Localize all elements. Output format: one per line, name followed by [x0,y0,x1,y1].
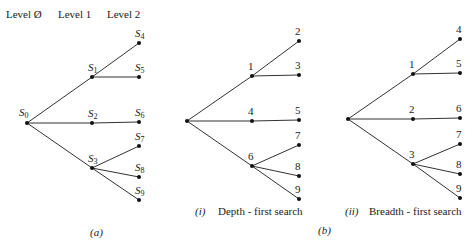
node-label-subscript: 8 [141,166,145,175]
edge-c-g [92,146,139,168]
caption-b: (b) [318,224,331,237]
edge-a-d [252,41,299,76]
tree-a: S0S1S2S3S4S5S6S7S8S9 [19,27,145,202]
caption-b-ii-prefix: (ii) [345,205,359,218]
node-label: S9 [135,184,145,198]
tree-node [90,166,94,170]
tree-node [458,116,462,120]
node-label: 6 [248,150,254,162]
node-label: 7 [295,129,301,141]
tree-node [137,144,141,148]
node-label: 3 [295,59,301,71]
node-label: S7 [135,130,145,144]
node-label: S4 [135,27,145,41]
edge-a-e [252,75,299,76]
node-label-subscript: 5 [141,66,145,75]
edge-b-f [252,120,299,121]
node-label: 1 [409,58,415,70]
caption-b-i: Depth - first search [218,205,303,217]
node-label: 7 [456,128,462,140]
edge-b-f [92,122,139,123]
tree-node [297,39,301,43]
edge-r-c [27,123,92,168]
node-label-subscript: 6 [141,111,145,120]
tree-node [250,119,254,123]
tree-node [458,196,462,200]
tree-node [90,75,94,79]
caption-b-i-prefix: (i) [195,205,206,218]
node-label-subscript: 7 [141,135,145,144]
captions: (a) (i) Depth - first search (ii) Breadt… [90,205,462,239]
tree-node [297,143,301,147]
tree-node [346,117,350,121]
node-label-subscript: 0 [25,111,29,120]
node-label: 5 [295,104,301,116]
caption-a: (a) [90,226,103,239]
node-label: S2 [88,107,98,121]
trees: S0S1S2S3S4S5S6S7S8S9146235789123456789 [19,23,462,202]
edge-b-f [413,118,460,119]
node-label: 1 [248,60,254,72]
tree-node [185,119,189,123]
node-label: S8 [135,161,145,175]
node-label-subscript: 1 [94,66,98,75]
node-label: S5 [135,61,145,75]
node-label: 5 [456,57,462,69]
edge-r-c [187,121,252,166]
tree-node [250,164,254,168]
tree-node [411,162,415,166]
edge-c-g [413,144,460,164]
tree-node [137,41,141,45]
edge-a-d [413,39,460,74]
tree-node [411,117,415,121]
node-label: 8 [295,160,301,172]
tree-node [411,72,415,76]
node-label: 2 [295,25,301,37]
node-label: 4 [456,23,462,35]
node-label: S3 [88,152,98,166]
edge-r-a [187,76,252,121]
tree-node [458,71,462,75]
edge-r-a [27,77,92,123]
node-label: 9 [295,183,301,195]
edge-a-d [92,43,139,77]
node-label-subscript: 2 [94,112,98,121]
tree-node [297,174,301,178]
tree-b-i: 146235789 [185,25,301,201]
tree-node [137,120,141,124]
level-headers: Level Ø Level 1 Level 2 [6,8,140,20]
node-label-subscript: 3 [94,157,98,166]
node-label: 9 [456,182,462,194]
tree-node [297,73,301,77]
tree-node [137,75,141,79]
node-label-subscript: 4 [141,32,145,41]
tree-node [458,37,462,41]
node-label: S1 [88,61,98,75]
tree-node [297,118,301,122]
node-label: S0 [19,106,29,120]
node-label: 6 [456,102,462,114]
tree-node [250,74,254,78]
tree-node [458,172,462,176]
tree-b-ii: 123456789 [346,23,462,200]
caption-b-ii: Breadth - first search [369,205,462,217]
edge-r-a [348,74,413,119]
node-label: 3 [409,148,415,160]
node-label: 2 [409,103,415,115]
level-0-header: Level Ø [6,8,42,20]
tree-node [137,198,141,202]
node-label: S6 [135,106,145,120]
level-2-header: Level 2 [107,8,140,20]
tree-node [90,121,94,125]
edge-a-e [413,73,460,74]
tree-node [25,121,29,125]
search-tree-figure: Level Ø Level 1 Level 2 S0S1S2S3S4S5S6S7… [0,0,476,247]
tree-node [137,175,141,179]
node-label-subscript: 9 [141,189,145,198]
node-label: 8 [456,158,462,170]
node-label: 4 [248,105,254,117]
level-1-header: Level 1 [58,8,91,20]
tree-node [297,197,301,201]
edge-c-g [252,145,299,166]
tree-node [458,142,462,146]
